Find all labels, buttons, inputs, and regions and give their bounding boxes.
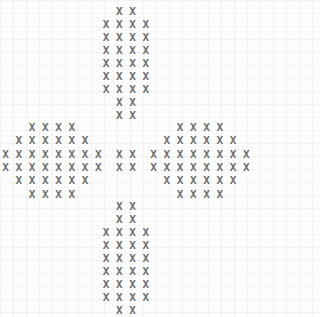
center-row: X X [116,161,136,174]
bottom-row: X X X X [103,226,149,239]
bottom-row: X X X X [103,265,149,278]
top-row: X X X X [103,18,149,31]
right-row: X X X X X X X X [150,161,249,174]
bottom-row: X X X X [103,278,149,291]
top-row: X X X X [103,83,149,96]
top-row: X X X X [103,57,149,70]
top-row: X X [116,109,136,122]
bottom-row: X X X X [103,291,149,304]
top-row: X X X X [103,44,149,57]
right-row: X X X X [177,121,223,134]
center-row: X X [116,148,136,161]
right-row: X X X X X X [164,134,237,147]
left-row: X X X X X X [16,174,89,187]
right-row: X X X X X X [164,174,237,187]
right-row: X X X X [177,188,223,201]
top-row: X X [116,96,136,109]
top-row: X X X X [103,31,149,44]
top-row: X X X X [103,70,149,83]
bottom-row: X X [116,304,136,317]
bottom-row: X X [116,200,136,213]
bottom-row: X X X X [103,239,149,252]
bottom-row: X X [116,213,136,226]
left-row: X X X X [29,188,75,201]
left-row: X X X X X X X X [2,148,101,161]
left-row: X X X X X X [16,134,89,147]
left-row: X X X X X X X X [2,161,101,174]
top-row: X X [116,5,136,18]
bottom-row: X X X X [103,252,149,265]
right-row: X X X X X X X X [150,148,249,161]
left-row: X X X X [29,121,75,134]
